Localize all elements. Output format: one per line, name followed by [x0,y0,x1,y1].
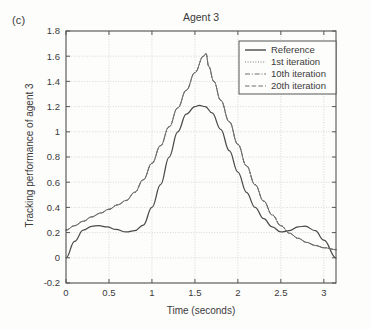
legend-label-2: 10th iteration [271,68,326,79]
y-tick-label: 1 [55,126,60,137]
chart-legend: Reference1st iteration10th iteration20th… [239,41,336,94]
figure-panel: (c) Agent 3 Tracking performance of agen… [0,0,371,330]
x-tick-label: 2.5 [274,287,287,298]
x-tick-label: 3 [321,287,326,298]
x-tick-label: 2 [235,287,240,298]
legend-label-3: 20th iteration [271,80,326,91]
series-line-0 [66,105,336,257]
legend-label-1: 1st iteration [271,56,320,67]
x-tick-label: 0.5 [102,287,115,298]
y-tick-label: 1.2 [47,101,60,112]
legend-label-0: Reference [271,44,315,55]
chart-plot: 00.511.522.53-0.200.20.40.60.811.21.41.6… [0,0,371,330]
y-tick-label: -0.2 [44,277,60,288]
y-tick-label: 0.8 [47,151,60,162]
y-tick-label: 0.4 [47,202,60,213]
x-tick-label: 0 [63,287,68,298]
y-tick-label: 1.8 [47,25,60,36]
y-tick-label: 1.6 [47,51,60,62]
y-tick-label: 0.6 [47,177,60,188]
y-tick-label: 1.4 [47,76,60,87]
x-tick-label: 1.5 [188,287,201,298]
y-tick-label: 0.2 [47,227,60,238]
x-tick-label: 1 [149,287,154,298]
y-tick-label: 0 [55,252,60,263]
